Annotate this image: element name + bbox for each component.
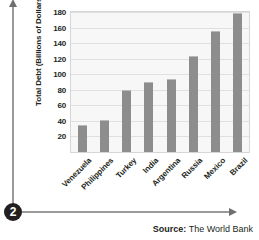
- y-axis-tick-labels: 20406080100120140160180: [0, 11, 68, 153]
- bar: [167, 79, 176, 152]
- y-tick-label: 80: [58, 85, 67, 94]
- y-tick-label: 160: [53, 23, 66, 32]
- bar: [211, 31, 220, 152]
- source-text: The World Bank: [186, 224, 253, 234]
- callout-arrow-horizontal: [22, 211, 230, 213]
- bar: [233, 13, 242, 152]
- bar: [144, 82, 153, 152]
- x-axis-tick-labels: VenezuelaPhilippinesTurkeyIndiaArgentina…: [71, 153, 249, 205]
- y-tick-label: 140: [53, 39, 66, 48]
- y-tick-label: 20: [58, 132, 67, 141]
- callout-number-badge: 2: [4, 203, 22, 221]
- x-tick-label: Russia: [180, 156, 204, 180]
- x-tick-label: Mexico: [202, 156, 227, 181]
- bar: [122, 90, 131, 152]
- y-tick-label: 60: [58, 101, 67, 110]
- y-tick-label: 100: [53, 70, 66, 79]
- y-tick-label: 40: [58, 116, 67, 125]
- bar: [189, 56, 198, 152]
- callout-arrow-vertical: [12, 6, 14, 206]
- y-tick-label: 120: [53, 54, 66, 63]
- x-tick-label: Brazil: [228, 156, 249, 177]
- bar: [100, 120, 109, 152]
- bar-chart-figure: Total Debt (Billions of Dollars) 2040608…: [0, 0, 259, 240]
- bar: [78, 125, 87, 152]
- source-label: Source:: [153, 224, 187, 234]
- x-tick-label: Turkey: [114, 156, 138, 180]
- x-tick-label: India: [141, 156, 160, 175]
- y-tick-label: 180: [53, 8, 66, 17]
- source-note: Source: The World Bank: [153, 224, 253, 234]
- bars-layer: [71, 12, 249, 152]
